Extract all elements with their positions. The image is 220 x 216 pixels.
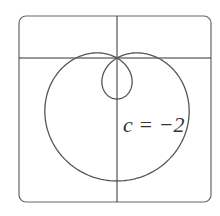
parameter-label: c = −2 (123, 112, 184, 137)
plot-frame (19, 16, 211, 202)
polar-plot: c = −2 (0, 0, 220, 216)
